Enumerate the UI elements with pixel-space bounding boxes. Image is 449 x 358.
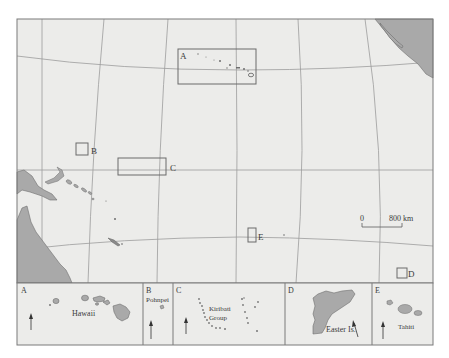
tahiti-nui-island xyxy=(398,305,412,314)
kauai-island xyxy=(53,298,59,303)
locator-label-b: B xyxy=(91,146,97,156)
scale-start-label: 0 xyxy=(360,214,364,223)
inset-letter: E xyxy=(375,286,380,295)
lanai-island xyxy=(95,303,98,305)
inset-place-name: Pohnpei xyxy=(146,296,169,304)
vanuatu-dot xyxy=(105,200,106,201)
oahu-island xyxy=(82,295,89,301)
map-svg: A B C D E 0 800 km A Hawaii xyxy=(0,0,449,358)
inset-letter: A xyxy=(21,286,27,295)
locator-label-d: D xyxy=(408,269,415,279)
locator-label-e: E xyxy=(258,232,264,242)
pohnpei-island xyxy=(160,305,164,309)
tahiti-iti-peninsula xyxy=(414,311,422,316)
inset-letter: D xyxy=(288,286,294,295)
inset-place-name-line2: Group xyxy=(209,314,227,322)
tahiti-dot xyxy=(283,234,285,236)
inset-place-name: Easter Is. xyxy=(326,325,356,334)
locator-label-c: C xyxy=(170,163,176,173)
inset-place-name: Hawaii xyxy=(72,309,96,318)
inset-letter: C xyxy=(176,286,181,295)
locator-label-a: A xyxy=(180,51,187,61)
scale-end-label: 800 km xyxy=(389,214,414,223)
pacific-map-figure: A B C D E 0 800 km A Hawaii xyxy=(0,0,449,358)
inset-place-name: Tahiti xyxy=(398,323,414,331)
loyalty-dot xyxy=(121,243,123,245)
fiji-dot xyxy=(114,218,116,220)
inset-place-name-line1: Kiribati xyxy=(209,305,231,313)
inset-letter: B xyxy=(146,286,151,295)
